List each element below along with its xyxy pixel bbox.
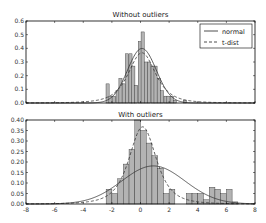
x-tick-label: 6 <box>224 206 228 213</box>
x-tick-label: 2 <box>167 206 171 213</box>
x-tick-label: -4 <box>80 206 86 213</box>
y-tick-label: 0.05 <box>11 190 25 197</box>
bottom-title: With outliers <box>118 111 163 119</box>
y-tick-label: 0.2 <box>14 72 24 79</box>
histogram-bar <box>135 120 141 204</box>
bottom-subplot: With outliers 0.000.050.100.150.200.250.… <box>11 111 257 213</box>
histogram-bar <box>163 194 169 205</box>
histogram-bar <box>173 100 176 103</box>
top-histogram <box>106 32 186 103</box>
y-tick-label: 0.20 <box>11 158 25 165</box>
histogram-bar <box>160 91 163 103</box>
top-title: Without outliers <box>113 11 169 19</box>
histogram-bar <box>125 54 128 103</box>
histogram-bar <box>119 78 122 103</box>
histogram-bar <box>167 96 170 103</box>
y-tick-label: 0.25 <box>11 148 25 155</box>
y-tick-label: 0.6 <box>14 17 24 24</box>
histogram-bar <box>215 189 221 204</box>
y-tick-label: 0.1 <box>14 85 24 92</box>
histogram-bar <box>209 187 215 204</box>
histogram-bar <box>158 168 164 204</box>
top-subplot: Without outliers 0.00.10.20.30.40.50.6 n… <box>14 11 255 106</box>
histogram-bar <box>141 32 144 103</box>
histogram-bar <box>135 85 138 103</box>
x-tick-label: 0 <box>139 206 143 213</box>
y-tick-label: 0.0 <box>14 99 24 106</box>
histogram-bar <box>192 194 198 205</box>
histogram-bar <box>118 179 124 204</box>
y-tick-label: 0.15 <box>11 169 25 176</box>
x-tick-label: -2 <box>109 206 115 213</box>
histogram-bar <box>123 164 129 204</box>
histogram-bar <box>146 143 152 204</box>
histogram-bar <box>148 62 151 103</box>
histogram-bar <box>169 189 175 204</box>
x-tick-label: 8 <box>253 206 257 213</box>
histogram-bar <box>129 149 135 204</box>
histogram-bar <box>221 194 227 205</box>
legend-tdist-label: t-dist <box>222 39 239 47</box>
histogram-bar <box>203 200 209 204</box>
histogram-bar <box>152 156 158 204</box>
x-tick-label: -8 <box>23 206 29 213</box>
legend-normal-label: normal <box>222 28 245 36</box>
y-tick-label: 0.3 <box>14 58 24 65</box>
figure: Without outliers 0.00.10.20.30.40.50.6 n… <box>0 0 266 223</box>
histogram-bar <box>112 96 115 103</box>
y-tick-label: 0.30 <box>11 137 25 144</box>
histogram-bar <box>186 194 192 205</box>
x-tick-label: -6 <box>52 206 58 213</box>
histogram-bar <box>112 194 118 205</box>
legend: normal t-dist <box>200 24 252 48</box>
y-tick-label: 0.40 <box>11 116 25 123</box>
bottom-histogram <box>106 120 238 204</box>
y-tick-label: 0.35 <box>11 127 25 134</box>
y-tick-label: 0.10 <box>11 179 25 186</box>
x-tick-label: 4 <box>196 206 200 213</box>
y-tick-label: 0.5 <box>14 31 24 38</box>
y-tick-label: 0.4 <box>14 44 24 51</box>
